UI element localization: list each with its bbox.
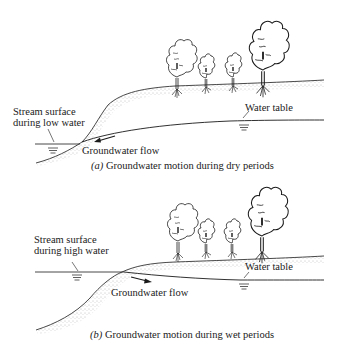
stream-label-line1: Stream surface	[34, 234, 97, 245]
figure-caption: (b) Groundwater motion during wet period…	[90, 329, 274, 340]
stream-water-symbol-icon	[48, 148, 58, 153]
flow-arrow-head-icon	[144, 279, 152, 284]
groundwater-flow-label: Groundwater flow	[111, 287, 188, 298]
figure-b-wet-periods: Stream surface during high water Water t…	[0, 176, 343, 352]
stream-label-leader	[48, 129, 54, 142]
caption-letter: (a)	[91, 160, 103, 171]
tree-icon	[224, 219, 241, 259]
stream-label-line2: during low water	[13, 117, 85, 128]
flow-arrow-line	[131, 277, 147, 281]
water-table-label: Water table	[245, 102, 293, 113]
tree-icon	[248, 187, 288, 263]
water-table-symbol-icon	[239, 284, 249, 289]
water-table-line	[82, 120, 324, 142]
groundwater-dry-diagram	[0, 0, 343, 176]
water-table-line	[124, 272, 324, 280]
stream-label-leader	[72, 262, 78, 271]
stream-label-line2: during high water	[34, 245, 109, 256]
water-table-symbol-icon	[239, 125, 249, 130]
figure-a-dry-periods: Stream surface during low water Water ta…	[0, 0, 343, 176]
caption-letter: (b)	[90, 329, 102, 340]
stream-label-line1: Stream surface	[13, 106, 76, 117]
tree-icon	[167, 204, 198, 262]
caption-text: Groundwater motion during dry periods	[103, 160, 274, 171]
figure-caption: (a) Groundwater motion during dry period…	[91, 160, 274, 171]
water-table-leader	[244, 272, 249, 278]
groundwater-flow-label: Groundwater flow	[82, 145, 159, 156]
caption-text: Groundwater motion during wet periods	[102, 329, 274, 340]
tree-icon	[198, 219, 215, 259]
stream-water-symbol-icon	[72, 275, 82, 280]
water-table-label: Water table	[245, 261, 293, 272]
